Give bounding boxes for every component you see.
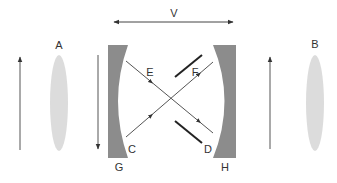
label-e: E — [146, 66, 153, 78]
lens-b — [306, 55, 324, 151]
lens-a — [50, 55, 68, 151]
label-f: F — [192, 66, 199, 78]
mirror-h-label: H — [221, 161, 229, 173]
ray-e-to-d — [126, 61, 213, 133]
lens-a-label: A — [55, 39, 63, 51]
label-c: C — [128, 143, 136, 155]
mirror-h — [213, 45, 236, 158]
bar-lower — [175, 121, 202, 143]
mirror-g-label: G — [115, 161, 124, 173]
ray-c-to-f — [126, 62, 213, 137]
mirror-g — [108, 45, 128, 158]
lens-b-label: B — [311, 38, 318, 50]
velocity-label: V — [170, 7, 178, 19]
label-d: D — [204, 143, 212, 155]
light-clock-diagram: V A G H E F C D B — [0, 0, 337, 183]
